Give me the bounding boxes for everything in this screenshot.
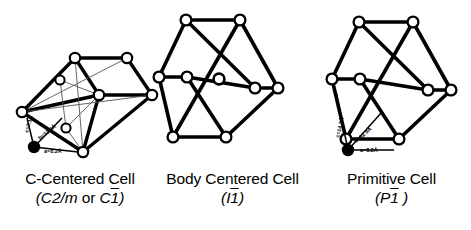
edge-right-diagonal	[127, 58, 152, 95]
unit-cell-figure: c=7.1Å b=12.9Å a=8.2Å C-Centered Cell (C…	[0, 0, 471, 230]
lattice-node	[182, 72, 193, 83]
lattice-node	[122, 53, 132, 63]
paren-close: )	[239, 189, 244, 206]
lattice-node	[154, 72, 165, 83]
lattice-node	[70, 53, 80, 63]
edge-front-down	[187, 77, 226, 137]
caption-primitive: Primitive Cell (P1 )	[312, 170, 471, 208]
caption-space-group-c-centered: (C2/m or C1)	[0, 189, 160, 208]
axis-label-b: b=12.9Å	[353, 126, 373, 144]
edge-bottom-right	[399, 90, 451, 139]
lattice-node-interior	[61, 123, 70, 132]
origin-marker	[29, 142, 40, 153]
origin-marker	[343, 145, 354, 156]
lattice-node	[408, 17, 419, 28]
caption-c-centered: C-Centered Cell (C2/m or C1)	[0, 170, 160, 208]
space-group-symbol-bar: 1	[390, 189, 399, 206]
edge-bottom-left	[159, 77, 173, 137]
axis-label-a: a=8.2Å	[360, 147, 378, 153]
cell-diagram-c-centered: c=7.1Å b=12.9Å a=8.2Å C-Centered Cell (C…	[0, 0, 160, 230]
caption-title-primitive: Primitive Cell	[312, 170, 471, 189]
edge-bottom-right	[226, 88, 278, 137]
caption-body-centered: Body Centered Cell (I1)	[150, 170, 315, 208]
cell-diagram-body-centered: Body Centered Cell (I1)	[150, 0, 315, 230]
lattice-node	[221, 132, 232, 143]
lattice-node	[327, 74, 338, 85]
cell-diagram-primitive: c=14.2Å b=12.9Å a=8.2Å Primitive Cell (P…	[312, 0, 471, 230]
edge-back-left	[159, 20, 186, 77]
lattice-node	[355, 74, 366, 85]
lattice-node	[168, 132, 179, 143]
caption-title-body-centered: Body Centered Cell	[150, 170, 315, 189]
internal-line-1	[22, 58, 127, 112]
edge-left-vertical	[22, 58, 75, 112]
space-group-conjunction: or	[78, 189, 100, 206]
axis-label-a: a=8.2Å	[44, 148, 62, 154]
lattice-node	[78, 147, 88, 157]
space-group-symbol-bar: 1	[230, 189, 239, 206]
lattice-node	[354, 17, 365, 28]
lattice-node	[181, 15, 192, 26]
caption-title-c-centered: C-Centered Cell	[0, 170, 160, 189]
body-centered-cell-svg	[150, 0, 315, 170]
lattice-node	[446, 85, 457, 96]
lattice-node	[235, 15, 246, 26]
space-group-symbol-secondary-bar: 1	[111, 189, 120, 206]
paren-close: )	[399, 189, 408, 206]
caption-space-group-body-centered: (I1)	[150, 189, 315, 208]
space-group-symbol-letter: P	[380, 189, 390, 206]
space-group-symbol-secondary-letter: C	[100, 189, 111, 206]
lattice-node-interior	[55, 75, 64, 84]
lattice-node	[94, 90, 104, 100]
caption-space-group-primitive: (P1 )	[312, 189, 471, 208]
edge-front-right	[83, 95, 152, 152]
body-center-atom	[214, 74, 225, 85]
lattice-node	[250, 83, 261, 94]
lattice-node	[17, 107, 27, 117]
paren-close: )	[119, 189, 124, 206]
edge-back-left	[332, 22, 359, 79]
c-centered-cell-svg: c=7.1Å b=12.9Å a=8.2Å	[0, 0, 160, 170]
primitive-cell-svg: c=14.2Å b=12.9Å a=8.2Å	[312, 0, 471, 170]
space-group-symbol-primary: C2/m	[41, 189, 78, 206]
lattice-node	[423, 85, 434, 96]
lattice-node	[394, 134, 405, 145]
lattice-node	[273, 83, 284, 94]
edge-back-diagonal	[75, 58, 99, 95]
